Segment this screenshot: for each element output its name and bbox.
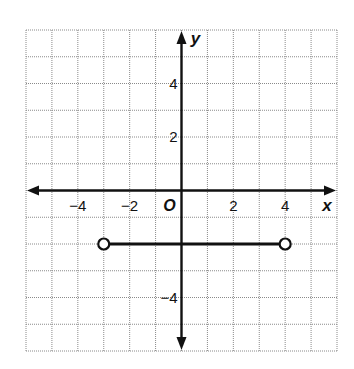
- x-axis-right-arrow-icon: [324, 186, 336, 196]
- data-series: [98, 239, 290, 250]
- tick-labels: −4−22442−4Oxy: [69, 29, 333, 306]
- y-axis-down-arrow-icon: [177, 337, 187, 350]
- x-axis-label: x: [321, 196, 333, 215]
- x-tick-label: −4: [69, 197, 86, 214]
- y-axis-label: y: [190, 29, 202, 48]
- y-tick-label: −4: [160, 289, 177, 306]
- x-tick-label: 4: [281, 197, 289, 214]
- coordinate-plane-figure: −4−22442−4Oxy: [0, 0, 354, 369]
- open-endpoint: [280, 239, 291, 250]
- x-tick-label: −2: [121, 197, 138, 214]
- y-axis-up-arrow-icon: [177, 31, 187, 44]
- axes: [27, 31, 336, 350]
- x-tick-label: 2: [229, 197, 237, 214]
- coordinate-plane: −4−22442−4Oxy: [0, 0, 354, 369]
- y-tick-label: 4: [169, 75, 177, 92]
- open-endpoint: [98, 239, 109, 250]
- y-tick-label: 2: [169, 128, 177, 145]
- origin-label: O: [163, 197, 176, 214]
- x-axis-left-arrow-icon: [27, 186, 39, 196]
